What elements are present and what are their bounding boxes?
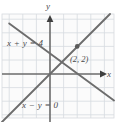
intersection-point-label: (2, 2) (70, 55, 88, 64)
line-label-x-minus-y-equals-0: x − y = 0 (22, 101, 58, 110)
coordinate-plane-figure: x + y = 4 x − y = 0 (2, 2) x y (0, 0, 116, 122)
line-label-x-plus-y-equals-4: x + y = 4 (7, 39, 43, 48)
y-axis-label: y (46, 2, 50, 11)
intersection-point-marker (75, 44, 80, 49)
x-axis-label: x (107, 70, 111, 79)
